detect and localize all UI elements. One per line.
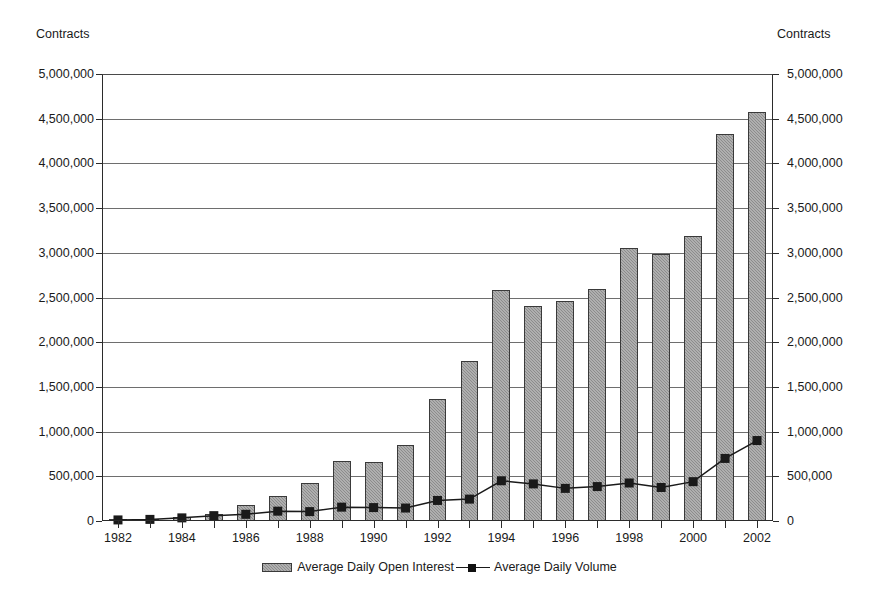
left-axis-tick-label: 3,500,000	[38, 202, 94, 215]
right-axis-tick-label: 500,000	[787, 470, 832, 483]
right-axis-tick	[773, 342, 779, 343]
volume-marker-2000	[689, 477, 698, 486]
right-axis-tick-label: 3,000,000	[787, 247, 843, 260]
x-axis-tick-1997	[597, 521, 598, 528]
x-axis-label-1984: 1984	[168, 531, 196, 545]
x-axis-label-1986: 1986	[232, 531, 260, 545]
x-axis-label-1994: 1994	[487, 531, 515, 545]
x-axis-label-2000: 2000	[679, 531, 707, 545]
left-axis-tick-label: 1,000,000	[38, 426, 94, 439]
right-axis-tick-label: 1,000,000	[787, 426, 843, 439]
left-axis-tick-label: 2,000,000	[38, 336, 94, 349]
x-axis-label-1998: 1998	[615, 531, 643, 545]
volume-marker-1995	[529, 479, 538, 488]
right-axis-tick	[773, 253, 779, 254]
legend-item-volume: Average Daily Volume	[454, 560, 617, 574]
volume-marker-1988	[305, 507, 314, 516]
line-marker-icon	[456, 562, 490, 573]
x-axis-tick-2001	[725, 521, 726, 528]
legend-label-open-interest: Average Daily Open Interest	[297, 560, 454, 574]
right-axis-tick	[773, 432, 779, 433]
left-axis-tick-label: 4,500,000	[38, 113, 94, 126]
right-axis-tick	[773, 387, 779, 388]
plot-area	[102, 74, 773, 521]
chart-legend: Average Daily Open Interest Average Dail…	[0, 560, 879, 574]
x-axis-ticks	[102, 521, 773, 529]
legend-item-open-interest: Average Daily Open Interest	[262, 560, 454, 574]
right-axis-tick-label: 1,500,000	[787, 381, 843, 394]
volume-marker-1987	[273, 507, 282, 516]
chart-title-fragment	[0, 0, 879, 10]
x-axis-tick-1990	[374, 521, 375, 528]
x-axis-tick-1983	[150, 521, 151, 528]
volume-marker-1997	[593, 482, 602, 491]
left-axis-tick-label: 0	[87, 515, 94, 528]
volume-marker-1989	[337, 503, 346, 512]
x-axis-tick-1999	[661, 521, 662, 528]
x-axis-tick-1994	[501, 521, 502, 528]
x-axis-tick-2002	[757, 521, 758, 528]
chart-container: Contracts Contracts 5,000,0004,500,0004,…	[0, 0, 879, 600]
x-axis-tick-1992	[438, 521, 439, 528]
x-axis-label-1982: 1982	[104, 531, 132, 545]
left-axis-tick-labels: 5,000,0004,500,0004,000,0003,500,0003,00…	[0, 74, 94, 521]
right-axis-tick	[773, 119, 779, 120]
right-axis-tick	[773, 163, 779, 164]
right-axis-unit-caption: Contracts	[777, 27, 831, 41]
volume-marker-1999	[657, 483, 666, 492]
x-axis-tick-1986	[246, 521, 247, 528]
right-axis-tick-label: 4,500,000	[787, 113, 843, 126]
volume-marker-1993	[465, 495, 474, 504]
volume-marker-2001	[721, 454, 730, 463]
volume-marker-1991	[401, 504, 410, 513]
right-axis-tick-label: 3,500,000	[787, 202, 843, 215]
left-axis-tick-label: 5,000,000	[38, 68, 94, 81]
volume-marker-1990	[369, 503, 378, 512]
x-axis-label-1988: 1988	[296, 531, 324, 545]
x-axis-tick-2000	[693, 521, 694, 528]
x-axis-tick-1995	[533, 521, 534, 528]
x-axis-tick-1991	[406, 521, 407, 528]
x-axis-tick-1985	[214, 521, 215, 528]
right-axis-tick-label: 5,000,000	[787, 68, 843, 81]
x-axis-label-1996: 1996	[551, 531, 579, 545]
legend-label-volume: Average Daily Volume	[494, 560, 617, 574]
volume-marker-1994	[497, 476, 506, 485]
left-axis-unit-caption: Contracts	[36, 27, 90, 41]
right-axis-tick	[773, 74, 779, 75]
volume-line-path	[118, 441, 757, 520]
x-axis-tick-1984	[182, 521, 183, 528]
right-axis-tick	[773, 476, 779, 477]
x-axis-tick-1987	[278, 521, 279, 528]
left-axis-tick-label: 4,000,000	[38, 157, 94, 170]
x-axis-tick-1988	[310, 521, 311, 528]
x-axis-tick-1998	[629, 521, 630, 528]
x-axis-label-1992: 1992	[424, 531, 452, 545]
legend-square-marker	[468, 564, 476, 572]
x-axis-tick-1993	[469, 521, 470, 528]
left-axis-tick-label: 1,500,000	[38, 381, 94, 394]
left-axis-tick-label: 2,500,000	[38, 292, 94, 305]
right-axis-tick-label: 0	[787, 515, 794, 528]
right-axis-tick-label: 2,000,000	[787, 336, 843, 349]
right-axis-tick	[773, 208, 779, 209]
right-axis-tick-labels: 5,000,0004,500,0004,000,0003,500,0003,00…	[787, 74, 879, 521]
volume-marker-2002	[753, 436, 762, 445]
x-axis-tick-1982	[118, 521, 119, 528]
volume-marker-1996	[561, 484, 570, 493]
right-axis-tick	[773, 521, 779, 522]
left-axis-tick-label: 3,000,000	[38, 247, 94, 260]
right-axis-tick-label: 4,000,000	[787, 157, 843, 170]
right-axis-tick	[773, 298, 779, 299]
volume-marker-1985	[209, 511, 218, 520]
volume-marker-1992	[433, 496, 442, 505]
x-axis-tick-1989	[342, 521, 343, 528]
x-axis-tick-labels: 1982198419861988199019921994199619982000…	[102, 531, 773, 551]
bar-swatch-icon	[262, 563, 292, 572]
right-axis-tick-label: 2,500,000	[787, 292, 843, 305]
volume-marker-1998	[625, 479, 634, 488]
volume-marker-1986	[241, 510, 250, 519]
left-axis-tick-label: 500,000	[49, 470, 94, 483]
x-axis-tick-1996	[565, 521, 566, 528]
x-axis-label-2002: 2002	[743, 531, 771, 545]
